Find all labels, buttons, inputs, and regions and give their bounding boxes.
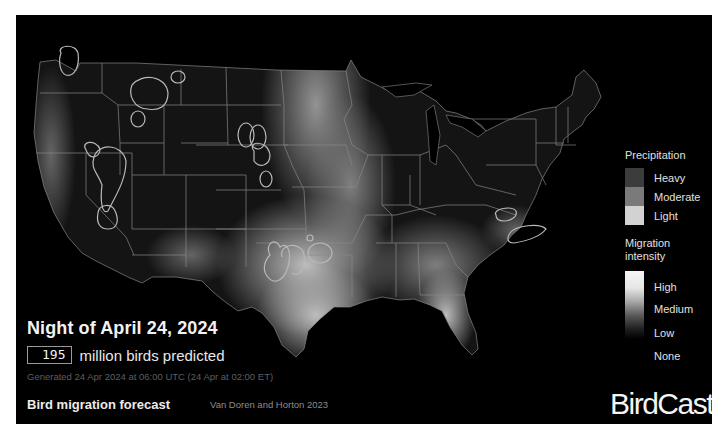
heavy-swatch [625,168,644,187]
precipitation-legend: Heavy Moderate Light [625,168,712,225]
light-swatch [625,206,644,225]
forecast-title: Bird migration forecast [27,397,170,412]
birds-count-row: 195 million birds predicted [27,346,225,364]
birdcast-logo[interactable]: BirdCast [610,387,712,421]
precipitation-legend-title: Precipitation [625,149,712,162]
night-title: Night of April 24, 2024 [27,318,218,339]
migration-intensity-legend: High Medium Low None [625,271,712,379]
birds-count-value: 195 [27,346,72,364]
migration-level-low: Low [654,327,674,339]
migration-level-medium: Medium [654,303,693,315]
credit-text: Van Doren and Horton 2023 [210,399,328,410]
moderate-swatch [625,187,644,206]
birds-count-label: million birds predicted [79,347,224,364]
map-legend: Precipitation Heavy Moderate Light Migra… [625,149,712,379]
precipitation-legend-item-light: Light [625,206,712,225]
precipitation-legend-item-moderate: Moderate [625,187,712,206]
map-panel: Precipitation Heavy Moderate Light Migra… [16,15,712,424]
migration-legend-title: Migration intensity [625,237,712,263]
migration-level-none: None [654,350,680,362]
migration-gradient-bar [625,271,644,339]
migration-level-high: High [654,281,677,293]
generated-timestamp: Generated 24 Apr 2024 at 06:00 UTC (24 A… [27,371,273,382]
precipitation-legend-item-heavy: Heavy [625,168,712,187]
